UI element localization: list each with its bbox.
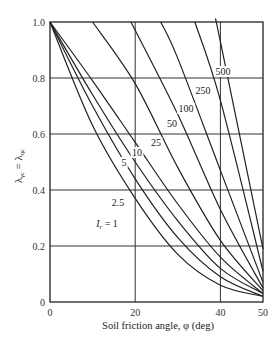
x-tick-label: 40 — [215, 307, 225, 318]
curve-label: 50 — [167, 118, 177, 129]
y-tick-label: 0 — [40, 297, 45, 308]
curve-label: 2.5 — [112, 197, 125, 208]
y-tick-label: 1.0 — [33, 17, 46, 28]
curve-label: 5 — [122, 157, 127, 168]
curve-label: 10 — [132, 147, 142, 158]
svg-text:λγc = λqc: λγc = λqc — [13, 149, 26, 183]
curve-labels: Ir = 12.55102550100250500 — [90, 66, 232, 231]
plot-border — [50, 22, 263, 302]
y-tick-label: 0.4 — [33, 185, 46, 196]
curve-label: 250 — [196, 85, 211, 96]
y-axis-ticks: 00.20.40.60.81.0 — [33, 17, 46, 308]
chart: Ir = 12.55102550100250500 00.20.40.60.81… — [0, 0, 280, 348]
x-tick-label: 20 — [130, 307, 140, 318]
grid-lines — [50, 22, 263, 302]
curve-ir-250 — [195, 22, 263, 271]
x-axis-ticks: 0204050 — [48, 307, 269, 318]
curve-ir-100 — [161, 22, 263, 282]
curve-label: 100 — [179, 103, 194, 114]
x-tick-label: 0 — [48, 307, 53, 318]
curve-ir-5 — [50, 22, 263, 294]
x-axis-title: Soil friction angle, φ (deg) — [102, 320, 214, 332]
curve-ir-10 — [50, 22, 263, 294]
x-tick-label: 50 — [258, 307, 268, 318]
curve-label: 500 — [216, 66, 231, 77]
plot-frame — [50, 22, 263, 302]
curves — [50, 19, 263, 297]
y-tick-label: 0.2 — [33, 241, 46, 252]
y-axis-title: λγc = λqc — [13, 149, 26, 183]
y-tick-label: 0.6 — [33, 129, 46, 140]
curve-ir-25 — [93, 22, 263, 291]
curve-label: Ir = 1 — [95, 218, 118, 231]
curve-label: 25 — [151, 137, 161, 148]
y-tick-label: 0.8 — [33, 73, 46, 84]
